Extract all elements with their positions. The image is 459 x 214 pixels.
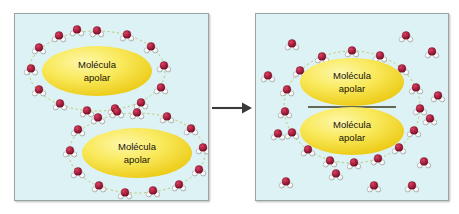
water-molecule xyxy=(192,166,206,177)
process-arrow xyxy=(211,99,253,117)
free-water-molecule xyxy=(279,178,293,189)
water-molecule xyxy=(172,181,186,192)
panel-before: Molécula apolar xyxy=(14,13,209,201)
water-molecule xyxy=(371,155,385,166)
water-molecule xyxy=(32,44,46,55)
water-molecule xyxy=(160,113,174,124)
water-molecule xyxy=(71,126,85,137)
free-water-molecule xyxy=(285,40,299,51)
nonpolar-blob-top: Molécula apolar xyxy=(300,58,404,106)
free-water-molecule xyxy=(367,182,381,193)
water-molecule xyxy=(196,144,208,155)
free-water-molecule xyxy=(399,32,413,43)
free-water-molecule xyxy=(405,182,419,193)
blob-label-line2: apolar xyxy=(84,72,110,83)
water-molecule xyxy=(70,26,84,37)
blob-label-line1: Molécula xyxy=(333,70,372,81)
nonpolar-blob-upper: Molécula apolar xyxy=(42,46,152,96)
free-water-molecule xyxy=(431,92,445,103)
water-molecule xyxy=(407,127,421,138)
water-molecule xyxy=(409,84,423,95)
water-molecule xyxy=(80,107,94,118)
blob-label-line2: apolar xyxy=(339,132,365,143)
water-molecule xyxy=(24,65,38,76)
water-molecule xyxy=(118,189,132,200)
water-molecule xyxy=(52,32,66,43)
free-water-molecule xyxy=(417,158,431,169)
blob-label-line2: apolar xyxy=(339,83,365,94)
blob-shape xyxy=(300,107,404,155)
water-molecule xyxy=(301,146,315,157)
water-molecule xyxy=(285,129,299,140)
blob-shape xyxy=(300,58,404,106)
water-molecule xyxy=(280,86,294,97)
free-water-molecule xyxy=(425,48,439,59)
water-molecule xyxy=(154,84,168,95)
water-molecule xyxy=(144,43,158,54)
water-molecule xyxy=(120,31,134,42)
panel-after: Molécula apolar Molécula apolar xyxy=(255,13,449,201)
nonpolar-blob-bottom: Molécula apolar xyxy=(300,107,404,155)
water-molecule xyxy=(373,52,387,63)
blob-label-line1: Molécula xyxy=(78,59,117,70)
free-water-molecule xyxy=(423,115,437,126)
water-molecule xyxy=(92,182,106,193)
blob-label-line2: apolar xyxy=(124,154,150,165)
free-water-molecule xyxy=(329,170,343,181)
process-arrow-icon xyxy=(211,99,253,117)
free-water-molecule xyxy=(261,72,275,83)
water-molecule xyxy=(130,109,144,120)
water-molecule xyxy=(392,144,406,155)
nonpolar-blob-lower: Molécula apolar xyxy=(82,128,192,178)
water-molecule xyxy=(53,100,67,111)
water-molecule xyxy=(146,187,160,198)
blob-label-line1: Molécula xyxy=(118,141,157,152)
hydrophobic-effect-figure: Molécula apolar xyxy=(0,0,459,214)
water-molecule xyxy=(63,147,77,158)
water-molecule xyxy=(157,62,171,73)
blob-shape xyxy=(42,46,152,96)
water-molecule xyxy=(184,125,198,136)
water-molecule xyxy=(347,159,361,170)
water-molecule xyxy=(278,108,292,119)
panel-after-canvas: Molécula apolar Molécula apolar xyxy=(256,14,448,200)
blob-shape xyxy=(82,128,192,178)
free-water-molecule xyxy=(271,130,285,141)
blob-label-line1: Molécula xyxy=(333,119,372,130)
water-molecule xyxy=(90,27,104,38)
water-molecule xyxy=(345,47,359,58)
water-molecule xyxy=(71,168,85,179)
water-molecule xyxy=(134,99,148,110)
panel-before-canvas: Molécula apolar xyxy=(15,14,208,200)
